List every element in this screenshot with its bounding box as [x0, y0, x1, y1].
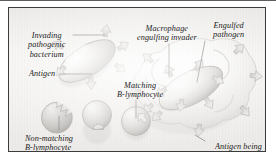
figure-plate: Invading pathogenic bacterium Antigen Ma…: [0, 0, 276, 159]
top-rule-divider: [0, 0, 276, 1]
label-matching-lymphocyte: Matching B-lymphocyte: [117, 81, 163, 100]
label-invading-bacterium: Invading pathogenic bacterium: [28, 31, 65, 59]
label-antigen-presented: Antigen being “presented”: [215, 142, 262, 152]
label-macrophage: Macrophage engulfing invader: [137, 24, 197, 43]
non-matching-b-lymphocyte-jagged: [42, 102, 73, 133]
label-engulfed-pathogen: Engulfed pathogen: [213, 21, 244, 40]
leader-antigen-presented: [195, 135, 205, 141]
label-non-matching-lymphocyte: Non-matching B-lymphocyte: [25, 134, 73, 152]
diagram-panel: Invading pathogenic bacterium Antigen Ma…: [8, 7, 266, 152]
label-antigen: Antigen: [29, 69, 55, 78]
